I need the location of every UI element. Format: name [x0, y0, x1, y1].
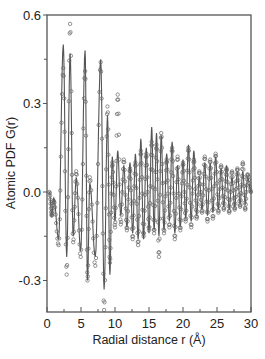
x-axis: 051015202530 [43, 307, 258, 331]
y-tick-label: -0.3 [19, 273, 41, 288]
data-point [68, 22, 71, 25]
data-point [78, 252, 81, 255]
series-layer [48, 22, 253, 311]
x-tick-label: 15 [142, 316, 156, 331]
data-point [152, 232, 155, 235]
y-axis-label: Atomic PDF G(r) [4, 117, 18, 209]
data-point [102, 308, 105, 311]
y-tick-label: 0.0 [23, 185, 41, 200]
y-tick-label: 0.6 [23, 8, 41, 23]
x-tick-label: 20 [176, 316, 190, 331]
data-point [160, 131, 163, 134]
x-tick-label: 10 [108, 316, 122, 331]
data-point [79, 255, 82, 258]
data-point [113, 226, 116, 229]
x-tick-label: 30 [244, 316, 258, 331]
x-tick-label: 25 [210, 316, 224, 331]
y-tick-label: 0.3 [23, 96, 41, 111]
data-point [89, 179, 92, 182]
x-tick-label: 5 [77, 316, 84, 331]
pdf-chart: 051015202530 -0.30.00.30.6 Radial distan… [0, 0, 265, 359]
x-tick-label: 0 [43, 316, 50, 331]
y-axis: -0.30.00.30.6 [19, 8, 47, 289]
x-axis-label: Radial distance r (Å) [92, 332, 205, 347]
data-point [93, 261, 96, 264]
data-point [65, 273, 68, 276]
data-point [88, 176, 91, 179]
data-point [94, 256, 97, 259]
data-point [157, 255, 160, 258]
data-point [94, 264, 97, 267]
data-point [106, 105, 109, 108]
data-point [116, 93, 119, 96]
